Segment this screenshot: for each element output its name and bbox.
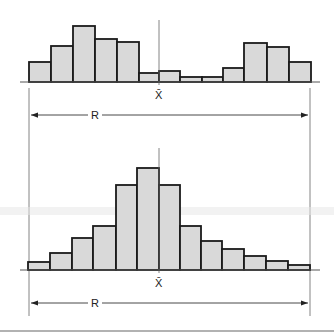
- histogram-bar: [28, 262, 50, 270]
- histogram-bar: [139, 73, 159, 82]
- bottom-range-label: R: [91, 297, 99, 309]
- histogram-bar: [117, 42, 139, 82]
- top-histogram-bars: [29, 26, 311, 82]
- histogram-bar: [244, 256, 266, 270]
- histogram-bar: [288, 265, 310, 270]
- histogram-bar: [180, 226, 201, 270]
- top-range-label: R: [91, 109, 99, 121]
- histogram-bar: [73, 26, 95, 82]
- histogram-bar: [267, 47, 289, 82]
- histogram-bar: [201, 241, 222, 270]
- histogram-bar: [222, 249, 244, 270]
- histogram-bar: [95, 39, 117, 82]
- histogram-bar: [266, 261, 288, 270]
- histogram-bar: [29, 62, 51, 82]
- histogram-bar: [159, 185, 180, 270]
- histogram-range-diagram: X̄ R X̄ R: [0, 0, 334, 336]
- histogram-bar: [244, 43, 267, 82]
- histogram-bar: [137, 168, 159, 270]
- histogram-bar: [50, 253, 72, 270]
- histogram-bar: [116, 185, 137, 270]
- bottom-histogram-bars: [28, 168, 310, 270]
- histogram-bar: [223, 68, 244, 82]
- top-mean-label: X̄: [155, 89, 163, 101]
- histogram-bar: [72, 238, 93, 270]
- bottom-mean-label: X̄: [155, 277, 163, 289]
- histogram-bar: [289, 62, 311, 82]
- histogram-bar: [202, 77, 223, 82]
- histogram-bar: [180, 77, 202, 82]
- histogram-bar: [159, 71, 180, 82]
- histogram-bar: [93, 226, 116, 270]
- histogram-bar: [51, 46, 73, 82]
